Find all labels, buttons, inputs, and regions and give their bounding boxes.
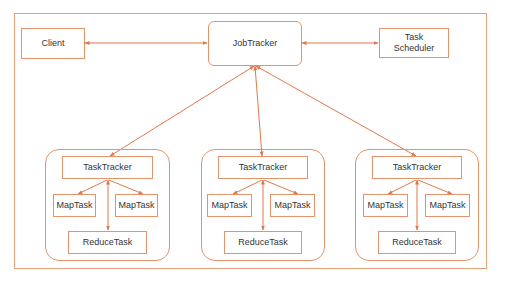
task-tracker-label: TaskTracker bbox=[239, 162, 288, 173]
task-tracker-label: TaskTracker bbox=[393, 162, 442, 173]
task-tracker-node-3: TaskTracker bbox=[372, 156, 462, 179]
map-task-label: MapTask bbox=[367, 200, 403, 211]
reduce-task-label: ReduceTask bbox=[392, 237, 442, 248]
task-scheduler-node: Task Scheduler bbox=[379, 28, 449, 58]
task-tracker-node-2: TaskTracker bbox=[218, 156, 308, 179]
map-task-label: MapTask bbox=[211, 200, 247, 211]
reduce-task-label: ReduceTask bbox=[238, 237, 288, 248]
map-task-node: MapTask bbox=[425, 194, 470, 217]
task-tracker-label: TaskTracker bbox=[83, 162, 132, 173]
map-task-node: MapTask bbox=[363, 194, 408, 217]
reduce-task-label: ReduceTask bbox=[83, 237, 133, 248]
job-tracker-node: JobTracker bbox=[208, 21, 302, 66]
client-node: Client bbox=[21, 28, 85, 59]
client-label: Client bbox=[41, 38, 64, 49]
map-task-label: MapTask bbox=[429, 200, 465, 211]
map-task-node: MapTask bbox=[207, 194, 252, 217]
job-tracker-label: JobTracker bbox=[233, 38, 278, 49]
map-task-label: MapTask bbox=[274, 200, 310, 211]
reduce-task-node: ReduceTask bbox=[378, 231, 456, 254]
map-task-label: MapTask bbox=[56, 200, 92, 211]
task-tracker-node-1: TaskTracker bbox=[62, 156, 153, 179]
reduce-task-node: ReduceTask bbox=[224, 231, 302, 254]
map-task-node: MapTask bbox=[270, 194, 315, 217]
reduce-task-node: ReduceTask bbox=[68, 231, 147, 254]
map-task-node: MapTask bbox=[53, 194, 96, 217]
task-scheduler-label-line2: Scheduler bbox=[394, 43, 435, 54]
map-task-node: MapTask bbox=[115, 194, 158, 217]
map-task-label: MapTask bbox=[118, 200, 154, 211]
task-scheduler-label-line1: Task bbox=[405, 32, 424, 43]
